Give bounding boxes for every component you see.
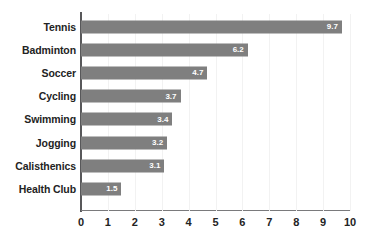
x-tick-label: 1 bbox=[96, 216, 120, 228]
x-tick-label: 4 bbox=[177, 216, 201, 228]
x-tick-label: 0 bbox=[69, 216, 93, 228]
bar-row: Soccer4.7 bbox=[81, 61, 350, 84]
bar: 3.1 bbox=[81, 159, 164, 172]
bar-value-label: 6.2 bbox=[233, 45, 244, 54]
x-tick-label: 3 bbox=[150, 216, 174, 228]
bar: 3.2 bbox=[81, 136, 167, 149]
bar: 4.7 bbox=[81, 66, 207, 79]
x-tick-label: 10 bbox=[338, 216, 362, 228]
category-label: Tennis bbox=[3, 21, 76, 33]
plot-area: Tennis9.7Badminton6.2Soccer4.7Cycling3.7… bbox=[81, 14, 350, 211]
bar-row: Tennis9.7 bbox=[81, 15, 350, 38]
x-tick-label: 7 bbox=[257, 216, 281, 228]
bar: 1.5 bbox=[81, 182, 121, 195]
category-label: Cycling bbox=[3, 90, 76, 102]
bar-row: Badminton6.2 bbox=[81, 38, 350, 61]
bar-value-label: 9.7 bbox=[327, 22, 338, 31]
bar: 3.4 bbox=[81, 113, 172, 126]
x-tick-label: 6 bbox=[230, 216, 254, 228]
bar-value-label: 3.4 bbox=[157, 115, 168, 124]
x-tick-label: 2 bbox=[123, 216, 147, 228]
bar: 9.7 bbox=[81, 20, 342, 33]
x-tick-label: 5 bbox=[204, 216, 228, 228]
bar: 6.2 bbox=[81, 43, 248, 56]
category-label: Swimming bbox=[3, 113, 76, 125]
category-label: Soccer bbox=[3, 67, 76, 79]
bar-row: Health Club1.5 bbox=[81, 177, 350, 200]
bar-row: Cycling3.7 bbox=[81, 85, 350, 108]
bar-row: Jogging3.2 bbox=[81, 131, 350, 154]
bar-value-label: 3.1 bbox=[149, 161, 160, 170]
category-label: Health Club bbox=[3, 183, 76, 195]
bar-row: Calisthenics3.1 bbox=[81, 154, 350, 177]
bar-chart: Tennis9.7Badminton6.2Soccer4.7Cycling3.7… bbox=[0, 0, 374, 246]
bar-value-label: 3.2 bbox=[152, 138, 163, 147]
bar-value-label: 1.5 bbox=[106, 184, 117, 193]
bar-value-label: 4.7 bbox=[192, 68, 203, 77]
category-label: Jogging bbox=[3, 137, 76, 149]
category-label: Calisthenics bbox=[3, 160, 76, 172]
bar-row: Swimming3.4 bbox=[81, 108, 350, 131]
bar-value-label: 3.7 bbox=[165, 92, 176, 101]
bar: 3.7 bbox=[81, 90, 181, 103]
x-tick-label: 8 bbox=[284, 216, 308, 228]
x-tick-label: 9 bbox=[311, 216, 335, 228]
category-label: Badminton bbox=[3, 44, 76, 56]
gridline bbox=[350, 14, 351, 211]
